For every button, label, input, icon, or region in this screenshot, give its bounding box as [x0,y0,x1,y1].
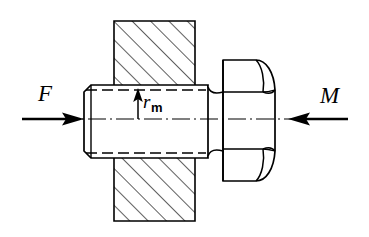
force-arrow [22,113,84,126]
head-outline [223,60,275,181]
moment-label: M [320,84,339,107]
moment-arrow [288,113,348,126]
mean-radius-symbol: r [143,91,150,112]
neck-fillet-upper [208,85,223,93]
force-label: F [38,82,52,105]
mean-radius-label: rm [143,92,162,114]
bolt-head [223,60,275,181]
neck-fillet-lower [208,150,223,158]
bolt-neck-fillet [208,60,223,181]
mean-radius-subscript: m [151,100,163,115]
bolt-joint-drawing [0,0,369,237]
engineering-drawing-figure: F M rm [0,0,369,237]
